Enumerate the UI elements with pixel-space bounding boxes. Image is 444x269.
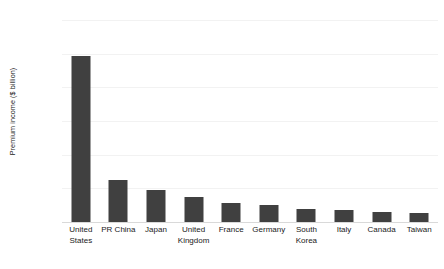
x-axis-tick-label-line: States: [54, 236, 108, 247]
bar[interactable]: [146, 190, 165, 222]
y-axis-title: Premium income ($ billion): [4, 0, 22, 222]
plot-area: [62, 20, 438, 222]
bar[interactable]: [334, 210, 353, 222]
bar-slot: [250, 20, 288, 222]
bar[interactable]: [372, 212, 391, 222]
bar[interactable]: [222, 203, 241, 222]
bar-slot: [212, 20, 250, 222]
bar-chart: Premium income ($ billion) 05001,0001,50…: [0, 0, 444, 269]
x-axis-tick-label-line: Taiwan: [392, 225, 444, 236]
bar-slot: [175, 20, 213, 222]
x-axis-tick-label-line: Kingdom: [167, 236, 221, 247]
bar-slot: [325, 20, 363, 222]
y-axis-title-text: Premium income ($ billion): [9, 67, 18, 155]
bar[interactable]: [71, 56, 90, 222]
bar-series: [62, 20, 438, 222]
bar-slot: [400, 20, 438, 222]
x-axis-tick-label: Taiwan: [392, 225, 444, 236]
bar-slot: [62, 20, 100, 222]
x-axis-tick-label-line: Korea: [279, 236, 333, 247]
bar[interactable]: [184, 197, 203, 222]
bar[interactable]: [297, 209, 316, 222]
bar[interactable]: [109, 180, 128, 222]
gridline: [62, 222, 438, 223]
bar-slot: [363, 20, 401, 222]
bar-slot: [137, 20, 175, 222]
bar[interactable]: [410, 213, 429, 222]
bar[interactable]: [259, 205, 278, 223]
x-axis-labels: UnitedStatesPR ChinaJapanUnitedKingdomFr…: [62, 225, 438, 269]
bar-slot: [288, 20, 326, 222]
bar-slot: [100, 20, 138, 222]
